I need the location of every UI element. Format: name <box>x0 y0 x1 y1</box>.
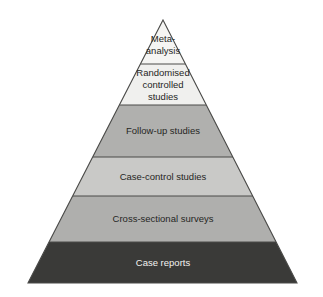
tier-label-cross-sectional-surveys: Cross-sectional surveys <box>113 213 214 224</box>
tier-label-line: Meta- <box>151 33 175 44</box>
tier-label-line: studies <box>148 90 178 101</box>
tier-label-line: Case-control studies <box>120 171 207 182</box>
evidence-pyramid-diagram: Meta-analysisRandomisedcontrolledstudies… <box>0 0 323 297</box>
tier-label-line: controlled <box>142 79 183 90</box>
tier-label-case-control-studies: Case-control studies <box>120 171 207 182</box>
tier-label-case-reports: Case reports <box>136 257 191 268</box>
tier-label-follow-up-studies: Follow-up studies <box>126 125 200 136</box>
tier-label-line: Case reports <box>136 257 191 268</box>
tier-label-line: Follow-up studies <box>126 125 200 136</box>
tier-label-meta-analysis: Meta-analysis <box>146 33 181 56</box>
tier-label-line: Randomised <box>136 67 189 78</box>
evidence-pyramid-figure: Meta-analysisRandomisedcontrolledstudies… <box>0 0 323 297</box>
tier-label-line: analysis <box>146 44 181 55</box>
tier-label-line: Cross-sectional surveys <box>113 213 214 224</box>
